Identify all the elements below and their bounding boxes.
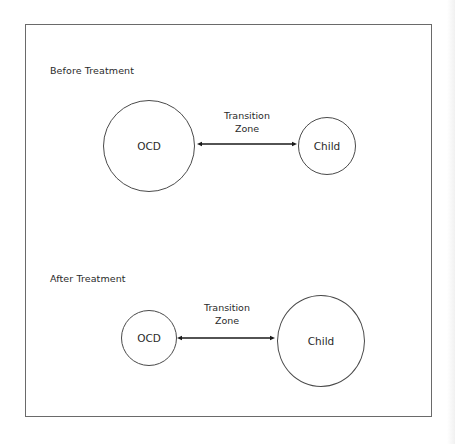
after-child-circle: Child [277,295,365,387]
before-transition-zone-label: Transition Zone [207,109,287,135]
before-ocd-circle: OCD [103,100,195,192]
before-child-label: Child [314,140,341,152]
page-edge-shade [447,0,455,444]
after-treatment-title: After Treatment [50,273,126,284]
after-transition-zone-label: Transition Zone [187,301,267,327]
after-ocd-label: OCD [137,332,161,344]
before-transition-label-line1: Transition [207,109,287,122]
before-treatment-title: Before Treatment [50,65,134,76]
after-transition-label-line1: Transition [187,301,267,314]
after-child-label: Child [308,335,335,347]
before-ocd-label: OCD [137,140,161,152]
after-ocd-circle: OCD [121,310,177,366]
after-double-arrow-icon [177,334,275,342]
after-transition-label-line2: Zone [187,314,267,327]
before-child-circle: Child [298,117,356,175]
diagram-frame [25,24,432,417]
before-double-arrow-icon [197,140,297,148]
before-transition-label-line2: Zone [207,122,287,135]
